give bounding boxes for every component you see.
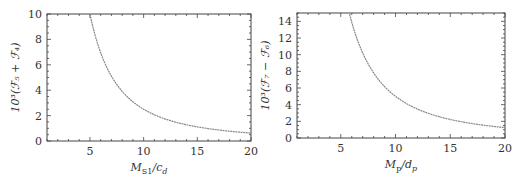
x-tick-label: 5: [337, 142, 344, 155]
data-curve: [350, 14, 505, 127]
y-axis-label: 10³(ℱ₅ + ℱ₄): [9, 42, 22, 112]
y-axis-label: 10³(ℱ₇ − ℱ₆): [259, 40, 272, 110]
y-tick-label: 0: [285, 132, 292, 145]
x-axis-label: MS1/cd: [130, 161, 168, 176]
y-tick-label: 6: [35, 59, 42, 72]
x-tick-label: 20: [244, 145, 258, 158]
left-plot: 51015200246810MS1/cd10³(ℱ₅ + ℱ₄): [9, 8, 258, 176]
x-tick-label: 15: [443, 142, 457, 155]
y-tick-label: 8: [35, 33, 42, 46]
x-tick-label: 20: [498, 142, 512, 155]
right-plot: 510152002468101214Mp/dp10³(ℱ₇ − ℱ₆): [259, 13, 512, 173]
plot-frame: [47, 14, 251, 141]
y-tick-label: 14: [278, 15, 292, 28]
x-axis-label: Mp/dp: [384, 158, 417, 173]
y-tick-label: 4: [35, 84, 42, 97]
x-tick-label: 5: [86, 145, 93, 158]
y-tick-label: 10: [28, 8, 42, 21]
x-tick-label: 10: [389, 142, 403, 155]
x-tick-label: 10: [137, 145, 151, 158]
x-tick-label: 15: [190, 145, 204, 158]
data-curve: [90, 14, 251, 133]
y-tick-label: 4: [285, 99, 292, 112]
plot-frame: [297, 13, 505, 138]
y-tick-label: 8: [285, 65, 292, 78]
y-tick-label: 12: [278, 32, 292, 45]
y-tick-label: 6: [285, 82, 292, 95]
y-tick-label: 2: [35, 110, 42, 123]
y-tick-label: 0: [35, 135, 42, 148]
figure: 51015200246810MS1/cd10³(ℱ₅ + ℱ₄) 5101520…: [0, 0, 523, 179]
y-tick-label: 10: [278, 49, 292, 62]
y-tick-label: 2: [285, 115, 292, 128]
